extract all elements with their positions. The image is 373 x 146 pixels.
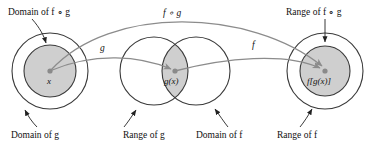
domain-g-leader bbox=[25, 110, 37, 127]
label-range-f: Range of f bbox=[277, 131, 317, 141]
composition-of-functions-diagram: Domain of f ∘ g Range of f ∘ g Domain of… bbox=[0, 0, 373, 146]
domain-f-leader bbox=[215, 109, 228, 127]
label-domain-g: Domain of g bbox=[11, 131, 59, 141]
label-domain-fog: Domain of f ∘ g bbox=[8, 8, 70, 18]
label-composition-arc: f ∘ g bbox=[163, 9, 181, 19]
label-point-gx: g(x) bbox=[164, 77, 179, 86]
point-gx-dot bbox=[172, 68, 177, 73]
diagram-canvas bbox=[0, 0, 373, 146]
label-g-arc: g bbox=[100, 44, 105, 54]
point-x-dot bbox=[47, 68, 52, 73]
f-map-arc bbox=[177, 58, 320, 70]
label-f-arc: f bbox=[252, 41, 255, 51]
point-fgx-dot bbox=[322, 68, 327, 73]
label-point-fgx: f[g(x)] bbox=[307, 77, 331, 86]
label-range-fog: Range of f ∘ g bbox=[286, 8, 342, 18]
label-range-g: Range of g bbox=[123, 131, 165, 141]
range-f-leader bbox=[300, 109, 312, 127]
range-g-leader bbox=[124, 110, 136, 127]
domain-fog-leader bbox=[32, 19, 46, 43]
label-point-x: x bbox=[47, 77, 51, 86]
label-domain-f: Domain of f bbox=[196, 131, 242, 141]
